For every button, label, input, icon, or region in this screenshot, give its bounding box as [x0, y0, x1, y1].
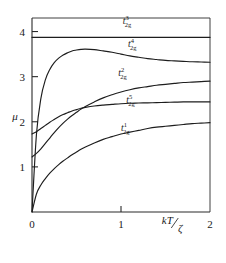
curve-label-superscript: 2: [121, 66, 124, 73]
curve-label-superscript: 5: [129, 93, 132, 100]
curve-label-subscript: 2g: [125, 21, 132, 28]
curve-label-subscript: 2g: [128, 100, 135, 107]
y-axis-label: μ: [11, 110, 18, 122]
chart-figure: 1234012 t32gt42gt22gt52gt12g μkTζ: [0, 0, 226, 263]
curve-label-superscript: 3: [125, 14, 128, 21]
x-tick-label: 2: [207, 218, 213, 230]
mu-vs-kt-zeta-plot: 1234012 t32gt42gt22gt52gt12g μkTζ: [0, 0, 226, 263]
curve-label-subscript: 2g: [120, 73, 127, 80]
curve-label-subscript: 2g: [123, 128, 130, 135]
x-tick-label: 0: [29, 218, 35, 230]
curve-label-superscript: 1: [124, 121, 127, 128]
y-tick-label: 3: [20, 71, 26, 83]
curve-label-subscript: 2g: [130, 44, 137, 51]
x-tick-label: 1: [118, 218, 124, 230]
y-tick-label: 2: [20, 116, 26, 128]
y-tick-label: 1: [20, 161, 26, 173]
y-tick-label: 4: [20, 26, 26, 38]
x-axis-label-numerator: kT: [162, 214, 174, 226]
